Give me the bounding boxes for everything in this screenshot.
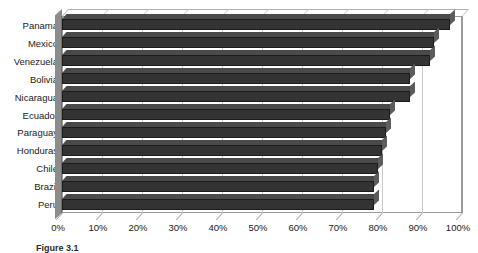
category-label-peru: Peru	[0, 199, 58, 210]
bar-row	[62, 145, 462, 156]
category-label-ecuador: Ecuador	[0, 109, 58, 120]
bar-row	[62, 199, 462, 210]
xtick-label-30: 30%	[168, 222, 187, 233]
bar-side-face	[410, 82, 415, 98]
bar-nicaragua	[62, 91, 410, 102]
bar-side-face	[390, 99, 395, 115]
plot-area	[62, 16, 462, 213]
bar-side-face	[382, 135, 387, 151]
xtick-label-0: 0%	[51, 222, 65, 233]
bar-row	[62, 73, 462, 84]
xtick-label-40: 40%	[208, 222, 227, 233]
xtick-label-60: 60%	[288, 222, 307, 233]
xtick-mark-90	[416, 213, 423, 220]
xtick-mark-70	[336, 213, 343, 220]
category-label-panama: Panama	[0, 19, 58, 30]
bar-peru	[62, 199, 374, 210]
bar-side-face	[434, 28, 439, 44]
xtick-label-20: 20%	[128, 222, 147, 233]
category-label-paraguay: Paraguay	[0, 127, 58, 138]
category-label-mexico: Mexico	[0, 37, 58, 48]
category-label-brazil: Brazil	[0, 181, 58, 192]
bar-row	[62, 109, 462, 120]
bar-side-face	[410, 64, 415, 80]
bar-row	[62, 127, 462, 138]
category-label-nicaragua: Nicaragua	[0, 91, 58, 102]
bar-bolivia	[62, 73, 410, 84]
xtick-mark-100	[456, 213, 463, 220]
xtick-label-70: 70%	[328, 222, 347, 233]
category-label-venezuela: Venezuela	[0, 55, 58, 66]
xtick-mark-30	[176, 213, 183, 220]
category-label-honduras: Honduras	[0, 145, 58, 156]
xtick-label-90: 90%	[408, 222, 427, 233]
xtick-label-50: 50%	[248, 222, 267, 233]
bar-row	[62, 37, 462, 48]
xtick-mark-20	[136, 213, 143, 220]
bar-side-face	[378, 153, 383, 169]
bar-chile	[62, 163, 378, 174]
figure-caption: Figure 3.1	[36, 243, 79, 253]
category-axis-labels: PanamaMexicoVenezuelaBoliviaNicaraguaEcu…	[0, 0, 58, 251]
bar-row	[62, 91, 462, 102]
bar-honduras	[62, 145, 382, 156]
gridline-100	[462, 16, 463, 213]
bar-side-face	[450, 10, 455, 26]
bar-ecuador	[62, 109, 390, 120]
bar-paraguay	[62, 127, 386, 138]
bar-venezuela	[62, 55, 430, 66]
bar-brazil	[62, 181, 374, 192]
xtick-mark-80	[376, 213, 383, 220]
category-label-chile: Chile	[0, 163, 58, 174]
bar-side-face	[374, 171, 379, 187]
xtick-mark-10	[96, 213, 103, 220]
bar-row	[62, 163, 462, 174]
xtick-label-100: 100%	[446, 222, 470, 233]
bar-side-face	[430, 46, 435, 62]
bar-row	[62, 55, 462, 66]
xtick-mark-60	[296, 213, 303, 220]
xtick-mark-50	[256, 213, 263, 220]
xtick-label-80: 80%	[368, 222, 387, 233]
xtick-label-10: 10%	[88, 222, 107, 233]
bar-row	[62, 19, 462, 30]
xtick-mark-40	[216, 213, 223, 220]
bar-panama	[62, 19, 450, 30]
category-label-bolivia: Bolivia	[0, 73, 58, 84]
bar-mexico	[62, 37, 434, 48]
bar-row	[62, 181, 462, 192]
bar-side-face	[386, 117, 391, 133]
